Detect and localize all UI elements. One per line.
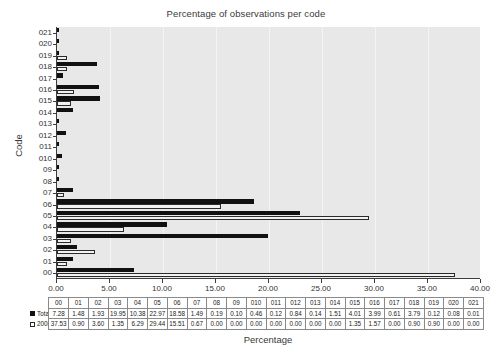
bar-total-02: [57, 245, 77, 249]
table-cell-2008-08: 0.00: [207, 319, 227, 330]
table-cell-Total-07: 1.49: [187, 308, 207, 319]
y-tick-mark-05: [53, 216, 56, 217]
table-cell-Total-018: 3.79: [404, 308, 424, 319]
x-tick-mark-7: [427, 279, 428, 283]
table-cell-Total-010: 0.46: [246, 308, 266, 319]
table-cell-2008-021: 0.00: [464, 319, 484, 330]
y-tick-label-020: 020: [20, 40, 52, 48]
table-cell-Total-014: 1.51: [325, 308, 345, 319]
y-tick-mark-04: [53, 227, 56, 228]
x-tick-mark-6: [374, 279, 375, 283]
table-row: 200837.530.903.601.356.2929.4415.510.670…: [29, 319, 484, 330]
y-tick-label-06: 06: [20, 201, 52, 209]
bar-total-011: [57, 142, 59, 146]
y-tick-label-019: 019: [20, 52, 52, 60]
y-tick-label-01: 01: [20, 258, 52, 266]
y-tick-mark-02: [53, 250, 56, 251]
x-tick-mark-5: [321, 279, 322, 283]
bar-total-014: [57, 108, 73, 112]
y-tick-label-04: 04: [20, 223, 52, 231]
y-tick-mark-016: [53, 90, 56, 91]
table-cell-Total-012: 0.84: [286, 308, 306, 319]
table-cell-2008-018: 0.90: [404, 319, 424, 330]
table-column-header-01: 01: [69, 298, 89, 309]
chart-page: Percentage of observations per code Code…: [0, 0, 492, 353]
y-tick-mark-015: [53, 101, 56, 102]
table-column-header-02: 02: [88, 298, 108, 309]
x-tick-mark-3: [215, 279, 216, 283]
x-tick-label-8: 40.00: [458, 284, 492, 293]
y-tick-label-02: 02: [20, 246, 52, 254]
table-column-header-013: 013: [306, 298, 326, 309]
gridline-vertical: [110, 27, 111, 278]
y-tick-mark-00: [53, 273, 56, 274]
x-tick-mark-1: [109, 279, 110, 283]
table-corner-cell: [29, 298, 49, 309]
table-column-header-021: 021: [464, 298, 484, 309]
table-column-header-05: 05: [148, 298, 168, 309]
table-column-header-011: 011: [266, 298, 286, 309]
table-cell-2008-04: 6.29: [128, 319, 148, 330]
y-tick-label-07: 07: [20, 189, 52, 197]
table-column-header-09: 09: [227, 298, 247, 309]
y-tick-mark-019: [53, 56, 56, 57]
bar-total-00: [57, 268, 134, 272]
y-tick-mark-011: [53, 147, 56, 148]
y-tick-label-015: 015: [20, 97, 52, 105]
table-header-row: 0001020304050607080901001101201301401501…: [29, 298, 484, 309]
bar-2008-02: [57, 250, 95, 254]
x-tick-label-3: 15.00: [193, 284, 237, 293]
bar-2008-04: [57, 227, 124, 231]
y-tick-label-010: 010: [20, 155, 52, 163]
table-cell-2008-020: 0.00: [444, 319, 464, 330]
bar-2008-016: [57, 90, 74, 94]
bar-2008-019: [57, 56, 67, 60]
bar-total-09: [57, 165, 59, 169]
table-cell-2008-03: 1.35: [108, 319, 128, 330]
table-cell-Total-011: 0.12: [266, 308, 286, 319]
x-tick-mark-2: [162, 279, 163, 283]
y-tick-label-08: 08: [20, 178, 52, 186]
y-tick-label-013: 013: [20, 120, 52, 128]
gridline-vertical: [163, 27, 164, 278]
table-cell-Total-015: 4.01: [345, 308, 365, 319]
legend-swatch-icon-2008: [30, 322, 35, 327]
table-cell-2008-01: 0.90: [69, 319, 89, 330]
table-column-header-017: 017: [385, 298, 405, 309]
y-tick-label-03: 03: [20, 235, 52, 243]
table-cell-2008-06: 15.51: [167, 319, 187, 330]
y-tick-label-012: 012: [20, 132, 52, 140]
bar-total-07: [57, 188, 73, 192]
bar-total-05: [57, 211, 300, 215]
table-row-header-2008: 2008: [29, 319, 49, 330]
table-cell-2008-014: 0.00: [325, 319, 345, 330]
y-tick-mark-06: [53, 205, 56, 206]
table-cell-2008-02: 3.60: [88, 319, 108, 330]
plot-area: [56, 27, 480, 279]
y-tick-label-014: 014: [20, 109, 52, 117]
bar-2008-00: [57, 273, 455, 277]
table-cell-Total-021: 0.01: [464, 308, 484, 319]
bar-total-021: [57, 28, 59, 32]
x-tick-mark-4: [268, 279, 269, 283]
y-tick-mark-03: [53, 239, 56, 240]
legend-label-2008: 2008: [37, 320, 49, 327]
chart-title: Percentage of observations per code: [0, 8, 492, 19]
bar-total-017: [57, 73, 63, 77]
table-cell-2008-019: 0.90: [424, 319, 444, 330]
table-cell-Total-04: 10.38: [128, 308, 148, 319]
table-cell-2008-011: 0.00: [266, 319, 286, 330]
y-tick-mark-018: [53, 67, 56, 68]
y-tick-mark-014: [53, 113, 56, 114]
table-column-header-016: 016: [365, 298, 385, 309]
bar-total-015: [57, 96, 100, 100]
y-tick-mark-020: [53, 44, 56, 45]
table-cell-2008-09: 0.00: [227, 319, 247, 330]
table-cell-Total-05: 22.97: [148, 308, 168, 319]
gridline-vertical: [322, 27, 323, 278]
bar-2008-018: [57, 67, 67, 71]
table-cell-2008-05: 29.44: [148, 319, 168, 330]
table-cell-2008-017: 0.00: [385, 319, 405, 330]
y-tick-mark-010: [53, 159, 56, 160]
bar-2008-015: [57, 101, 71, 105]
